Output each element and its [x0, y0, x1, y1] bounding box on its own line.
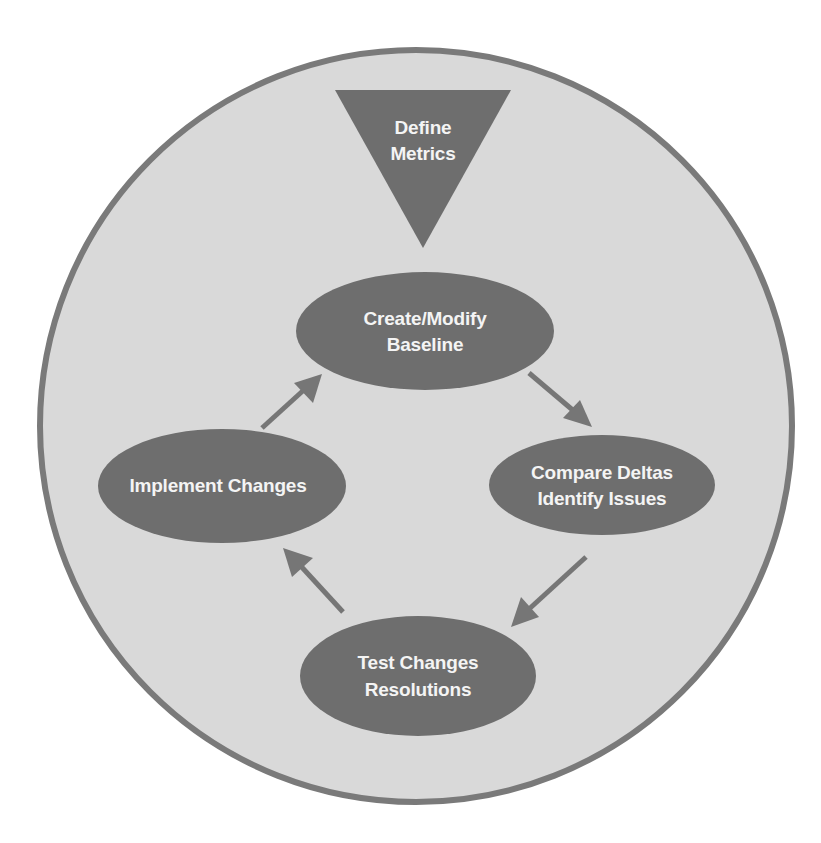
define-metrics-line-2: Metrics	[390, 143, 455, 164]
test-changes-node: Test Changes Resolutions	[300, 616, 536, 736]
implement-changes-line-1: Implement Changes	[129, 475, 306, 496]
cycle-diagram: Define Metrics Create/Modify Baseline Co…	[0, 0, 821, 843]
compare-deltas-line-2: Identify Issues	[538, 488, 667, 509]
test-changes-line-1: Test Changes	[358, 652, 479, 673]
test-changes-line-2: Resolutions	[365, 679, 472, 700]
create-modify-baseline-line-2: Baseline	[387, 334, 464, 355]
create-modify-baseline-node: Create/Modify Baseline	[296, 272, 554, 390]
compare-deltas-ellipse	[489, 435, 715, 535]
create-modify-baseline-line-1: Create/Modify	[363, 308, 487, 329]
test-changes-ellipse	[300, 616, 536, 736]
compare-deltas-line-1: Compare Deltas	[531, 462, 673, 483]
implement-changes-node: Implement Changes	[98, 429, 346, 543]
create-modify-baseline-ellipse	[296, 272, 554, 390]
define-metrics-line-1: Define	[395, 117, 452, 138]
compare-deltas-node: Compare Deltas Identify Issues	[489, 435, 715, 535]
